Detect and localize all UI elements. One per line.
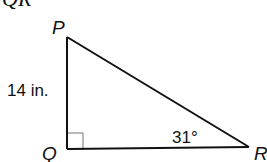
side-pq-length-label: 14 in. <box>7 81 49 100</box>
vertex-label-r: R <box>254 143 267 162</box>
vertex-label-q: Q <box>42 143 57 162</box>
right-angle-marker <box>67 133 83 149</box>
side-qr <box>67 147 249 149</box>
right-triangle-diagram: QR P Q R 14 in. 31° <box>0 0 267 162</box>
vertex-label-p: P <box>52 17 65 38</box>
header-partial-text: QR <box>2 0 32 11</box>
side-pr <box>67 37 249 147</box>
angle-r-label: 31° <box>172 128 198 147</box>
